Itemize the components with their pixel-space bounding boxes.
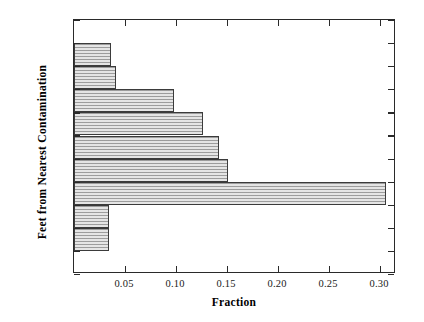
y-axis-tick xyxy=(74,89,80,90)
y-axis-tick xyxy=(388,89,394,90)
x-axis-tick xyxy=(380,266,381,272)
y-axis-tick xyxy=(388,274,394,275)
y-axis-tick xyxy=(74,205,80,206)
x-axis-tick xyxy=(278,20,279,26)
x-axis-tick xyxy=(278,266,279,272)
y-axis-tick xyxy=(388,135,394,136)
plot-area-frame xyxy=(73,19,395,273)
y-axis-tick xyxy=(388,182,394,183)
y-axis-tick xyxy=(74,43,80,44)
x-axis-tick xyxy=(227,266,228,272)
y-axis-tick xyxy=(388,205,394,206)
x-axis-tick xyxy=(329,266,330,272)
y-axis-tick xyxy=(388,43,394,44)
x-axis-tick-label: 0.20 xyxy=(252,278,302,289)
y-axis-tick xyxy=(74,182,80,183)
y-axis-title: Feet from Nearest Contamination xyxy=(36,32,48,272)
bar-row xyxy=(74,43,394,66)
y-axis-tick xyxy=(388,66,394,67)
y-axis-tick xyxy=(74,66,80,67)
y-axis-tick xyxy=(74,135,80,136)
x-axis-tick-label: 0.10 xyxy=(150,278,200,289)
x-axis-tick-label: 0.25 xyxy=(303,278,353,289)
bar-row xyxy=(74,136,394,159)
y-axis-tick xyxy=(388,159,394,160)
y-axis-tick xyxy=(74,20,80,21)
x-axis-tick xyxy=(176,266,177,272)
y-axis-tick xyxy=(74,228,80,229)
x-axis-tick xyxy=(125,266,126,272)
y-axis-tick xyxy=(388,228,394,229)
x-axis-tick xyxy=(125,20,126,26)
bar xyxy=(74,205,109,228)
bar xyxy=(74,112,203,135)
bar xyxy=(74,43,111,66)
x-axis-tick-label: 0.30 xyxy=(354,278,404,289)
y-axis-tick xyxy=(74,274,80,275)
bar-row xyxy=(74,159,394,182)
x-axis-tick-label: 0.05 xyxy=(99,278,149,289)
bar xyxy=(74,89,174,112)
bar-row xyxy=(74,89,394,112)
x-axis-tick xyxy=(329,20,330,26)
bar-row xyxy=(74,112,394,135)
bar xyxy=(74,228,109,251)
bar-row xyxy=(74,182,394,205)
y-axis-tick xyxy=(74,112,80,113)
x-axis-tick xyxy=(176,20,177,26)
y-axis-tick xyxy=(388,112,394,113)
bar-row xyxy=(74,66,394,89)
bar-row xyxy=(74,228,394,251)
bar xyxy=(74,136,219,159)
bar xyxy=(74,159,228,182)
y-axis-tick xyxy=(74,251,80,252)
plot-inner xyxy=(74,20,394,272)
y-axis-tick xyxy=(388,20,394,21)
y-axis-tick xyxy=(74,159,80,160)
bar-row xyxy=(74,20,394,43)
x-axis-title: Fraction xyxy=(73,296,395,308)
x-axis-tick xyxy=(380,20,381,26)
bar xyxy=(74,182,386,205)
x-axis-tick-label: 0.15 xyxy=(201,278,251,289)
bar-row xyxy=(74,251,394,272)
y-axis-tick xyxy=(388,251,394,252)
bar-row xyxy=(74,205,394,228)
bar-chart: >51202560-51201280-2560640-1280320-64016… xyxy=(0,0,424,322)
bar xyxy=(74,66,116,89)
x-axis-tick xyxy=(227,20,228,26)
